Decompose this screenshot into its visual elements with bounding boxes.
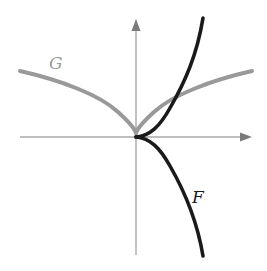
y-axis-arrow-icon [132, 19, 141, 31]
curve-f-label: F [192, 189, 204, 206]
graph-figure: G F [0, 0, 267, 271]
x-axis-arrow-icon [240, 133, 252, 142]
curve-g-label: G [49, 55, 63, 72]
graph-canvas [0, 0, 267, 271]
